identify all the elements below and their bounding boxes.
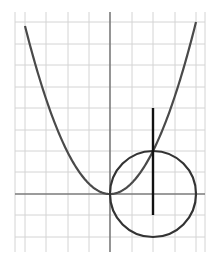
axes <box>15 12 205 252</box>
diagram-canvas <box>0 0 217 263</box>
